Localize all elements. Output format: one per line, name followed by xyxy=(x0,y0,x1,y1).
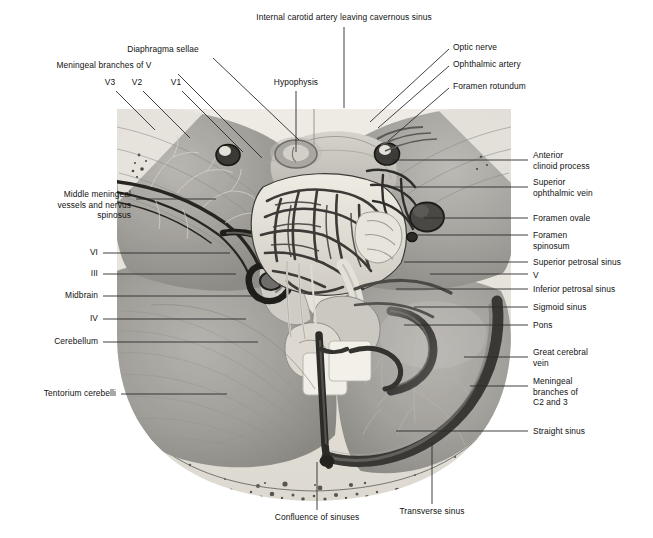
label-diaphragma-sellae: Diaphragma sellae xyxy=(103,44,223,55)
label-middle-meningeal-vessels: Middle meningeal vessels and nervus spin… xyxy=(5,189,131,221)
label-inferior-petrosal-sinus: Inferior petrosal sinus xyxy=(533,284,653,295)
label-nerve-vi: VI xyxy=(5,247,98,258)
label-foramen-rotundum: Foramen rotundum xyxy=(453,81,643,92)
label-nerve-iii: III xyxy=(5,268,98,279)
label-foramen-spinosum: Foramen spinosum xyxy=(533,230,651,251)
label-hypophysis: Hypophysis xyxy=(261,77,331,88)
label-ophthalmic-artery: Ophthalmic artery xyxy=(453,59,643,70)
anterior-clinoid-left xyxy=(216,145,240,166)
confluence-of-sinuses xyxy=(320,455,335,467)
foramen-spinosum xyxy=(407,232,417,241)
label-meningeal-branches-of-v: Meningeal branches of V xyxy=(24,60,184,71)
label-nerve-iv: IV xyxy=(5,313,98,324)
label-transverse-sinus: Transverse sinus xyxy=(370,506,494,517)
trigeminal-ganglion xyxy=(355,212,402,263)
label-cerebellum: Cerebellum xyxy=(5,336,98,347)
label-anterior-clinoid-process: Anterior clinoid process xyxy=(533,150,651,171)
label-optic-nerve: Optic nerve xyxy=(453,42,643,53)
hypophysis-center xyxy=(283,145,309,162)
label-midbrain: Midbrain xyxy=(5,290,98,301)
label-straight-sinus: Straight sinus xyxy=(533,426,651,437)
label-nerve-v: V xyxy=(533,270,651,281)
cranial-base-illustration xyxy=(115,105,513,503)
label-superior-petrosal-sinus: Superior petrosal sinus xyxy=(533,257,653,268)
label-superior-ophthalmic-vein: Superior ophthalmic vein xyxy=(533,177,651,198)
figure-stage: Internal carotid artery leaving cavernou… xyxy=(0,0,653,538)
label-sigmoid-sinus: Sigmoid sinus xyxy=(533,302,651,313)
label-great-cerebral-vein: Great cerebral vein xyxy=(533,347,651,368)
label-meningeal-branches-c2-c3: Meningeal branches of C2 and 3 xyxy=(533,376,651,408)
label-v3: V3 xyxy=(98,77,122,88)
label-pons: Pons xyxy=(533,320,651,331)
label-internal-carotid-artery: Internal carotid artery leaving cavernou… xyxy=(204,12,484,23)
label-tentorium-cerebelli: Tentorium cerebelli xyxy=(5,388,116,399)
label-v1: V1 xyxy=(164,77,188,88)
label-foramen-ovale: Foramen ovale xyxy=(533,213,651,224)
label-v2: V2 xyxy=(125,77,149,88)
